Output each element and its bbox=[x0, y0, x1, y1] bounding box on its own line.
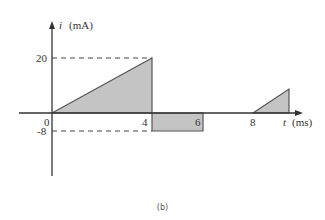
x-tick-6: 6 bbox=[195, 116, 201, 128]
y-axis-symbol: i bbox=[59, 19, 62, 31]
x-tick-0: 0 bbox=[44, 116, 50, 128]
figure-caption: (b) bbox=[0, 203, 325, 212]
ramp-area-0-4ms bbox=[52, 58, 152, 113]
x-tick-8: 8 bbox=[250, 116, 256, 128]
x-tick-4: 4 bbox=[142, 116, 148, 128]
ramp-area-8ms bbox=[253, 89, 289, 113]
current-waveform-chart: i (mA) 20 -8 0 4 6 8 t (ms) bbox=[0, 0, 325, 220]
y-axis-arrow-icon bbox=[49, 21, 55, 29]
x-axis-symbol: t bbox=[283, 116, 287, 128]
y-tick-20: 20 bbox=[36, 52, 48, 64]
y-axis-unit: (mA) bbox=[69, 19, 93, 32]
x-axis-unit: (ms) bbox=[292, 116, 313, 129]
